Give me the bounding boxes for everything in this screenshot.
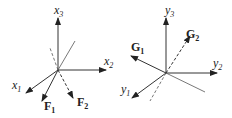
solid-extension-line: [166, 73, 205, 92]
y1-label: y1: [120, 82, 130, 98]
G2-vector: [166, 36, 190, 73]
x2-label: x2: [103, 54, 113, 70]
F2-vector: [58, 70, 73, 98]
x1-axis: [26, 70, 58, 93]
F1-vector: [42, 70, 58, 101]
right-frame: y3 y2 y1 G1 G2: [120, 3, 222, 101]
solid-extension-line: [58, 41, 75, 70]
coordinate-frames-diagram: x3 x2 x1 F1 F2 y3 y2 y1 G1 G2: [0, 0, 232, 118]
F2-label: F2: [77, 95, 88, 111]
G1-label: G1: [131, 40, 144, 56]
y2-label: y2: [212, 56, 222, 72]
G2-label: G2: [186, 27, 199, 43]
F1-label: F1: [44, 99, 55, 115]
y1-axis: [132, 73, 166, 98]
x3-label: x3: [53, 3, 63, 19]
y3-label: y3: [164, 3, 174, 19]
dashed-extension-line: [150, 73, 166, 101]
left-frame: x3 x2 x1 F1 F2: [11, 3, 113, 115]
G1-vector: [131, 56, 166, 73]
x1-label: x1: [11, 78, 21, 94]
dashed-extension-line: [50, 48, 58, 70]
